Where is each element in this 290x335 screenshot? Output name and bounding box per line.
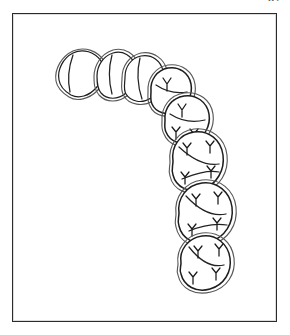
page-number: 67: [268, 0, 281, 1]
document-page: 67: [0, 0, 290, 335]
second-molar-outline: [178, 183, 232, 243]
dental-arch-illustration: [13, 14, 278, 323]
teeth-layer: [56, 49, 237, 293]
figure-frame: [12, 13, 277, 322]
